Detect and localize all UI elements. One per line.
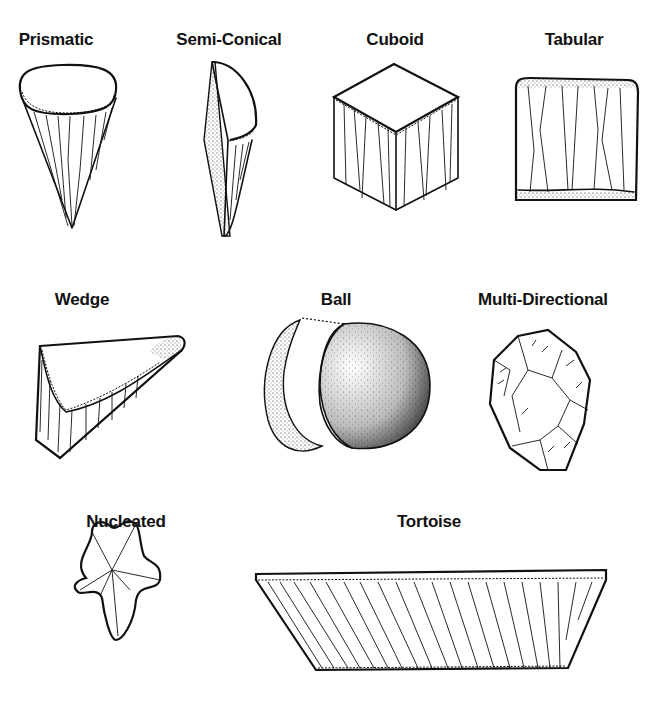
multi-directional-core-drawing xyxy=(490,330,590,470)
ball-core-drawing xyxy=(265,318,430,451)
cuboid-core-drawing xyxy=(334,64,458,210)
semi-conical-core-drawing xyxy=(204,62,256,236)
core-types-figure xyxy=(0,0,655,707)
tortoise-core-drawing xyxy=(256,570,606,670)
tabular-core-drawing xyxy=(516,78,638,200)
wedge-core-drawing xyxy=(36,336,185,458)
nucleated-core-drawing xyxy=(75,521,161,640)
prismatic-core-drawing xyxy=(20,65,116,228)
